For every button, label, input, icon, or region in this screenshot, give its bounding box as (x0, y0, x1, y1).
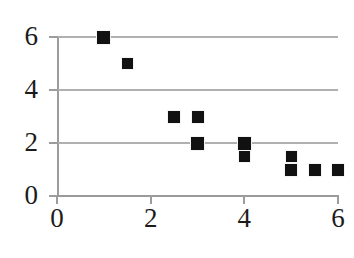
data-point (191, 110, 205, 124)
data-point (167, 110, 181, 124)
scatter-plot-figure: 02460246 (0, 0, 354, 258)
data-point (284, 163, 298, 177)
data-point (238, 150, 251, 163)
gridline-y-4 (57, 89, 338, 91)
data-point (190, 136, 205, 151)
x-tick-label-4: 4 (224, 205, 264, 232)
y-tick-label-6: 6 (4, 23, 38, 50)
y-tick-label-2: 2 (4, 129, 38, 156)
y-axis-line (57, 36, 59, 197)
x-tick-label-0: 0 (37, 205, 77, 232)
gridline-y-0 (57, 195, 338, 197)
x-tick-label-6: 6 (318, 205, 354, 232)
y-tick-2 (49, 142, 58, 144)
data-point (285, 150, 298, 163)
data-point (308, 163, 322, 177)
y-tick-6 (49, 36, 58, 38)
data-point (237, 136, 252, 151)
y-tick-4 (49, 89, 58, 91)
data-point (96, 30, 111, 45)
y-tick-label-4: 4 (4, 76, 38, 103)
plot-area: 02460246 (0, 0, 354, 258)
x-tick-label-2: 2 (131, 205, 171, 232)
y-tick-label-0: 0 (4, 182, 38, 209)
data-point (121, 57, 134, 70)
data-point (331, 163, 345, 177)
